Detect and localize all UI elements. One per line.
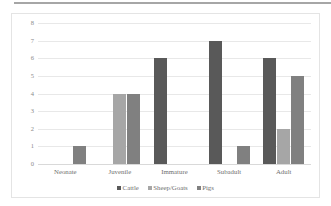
- bar-slot: [237, 23, 250, 164]
- legend-label: Cattle: [123, 185, 139, 192]
- bar-group-immature: [147, 23, 202, 164]
- bar-pigs-subadult[interactable]: [237, 146, 250, 164]
- bar-pigs-juvenile[interactable]: [127, 94, 140, 165]
- bar-group-subadult: [202, 23, 257, 164]
- bar-slot: [73, 23, 86, 164]
- bar-groups-container: [38, 23, 311, 164]
- bar-sheep-goats-adult[interactable]: [277, 129, 290, 164]
- bar-slot: [277, 23, 290, 164]
- y-axis-tick-label: 3: [31, 108, 34, 115]
- bar-slot: [113, 23, 126, 164]
- bar-cattle-immature[interactable]: [154, 58, 167, 164]
- legend-square-icon: [197, 186, 201, 190]
- bar-cattle-subadult[interactable]: [209, 41, 222, 164]
- bar-slot: [263, 23, 276, 164]
- x-axis-label-neonate: Neonate: [38, 169, 93, 176]
- bar-slot: [154, 23, 167, 164]
- x-axis-label-juvenile: Juvenile: [93, 169, 148, 176]
- y-axis-tick-label: 6: [31, 55, 34, 62]
- bar-slot: [182, 23, 195, 164]
- y-axis-tick-label: 5: [31, 73, 34, 80]
- legend-item-pigs[interactable]: Pigs: [197, 185, 214, 192]
- bar-pigs-neonate[interactable]: [73, 146, 86, 164]
- x-axis-label-subadult: Subadult: [202, 169, 257, 176]
- chart-legend: CattleSheep/GoatsPigs: [12, 185, 319, 192]
- bar-slot: [209, 23, 222, 164]
- y-axis-tick-label: 1: [31, 143, 34, 150]
- bar-group-juvenile: [93, 23, 148, 164]
- bar-slot: [99, 23, 112, 164]
- bar-group-adult: [256, 23, 311, 164]
- bar-group-neonate: [38, 23, 93, 164]
- x-axis-label-adult: Adult: [256, 169, 311, 176]
- legend-square-icon: [117, 186, 121, 190]
- bar-slot: [45, 23, 58, 164]
- top-divider-rule: [14, 2, 331, 4]
- legend-label: Sheep/Goats: [153, 185, 187, 192]
- bar-pigs-adult[interactable]: [291, 76, 304, 164]
- legend-item-cattle[interactable]: Cattle: [117, 185, 139, 192]
- bar-sheep-goats-juvenile[interactable]: [113, 94, 126, 165]
- y-axis-tick-label: 4: [31, 90, 34, 97]
- bar-slot: [168, 23, 181, 164]
- y-axis-tick-label: 8: [31, 20, 34, 27]
- chart-frame: 876543210 NeonateJuvenileImmatureSubadul…: [11, 13, 320, 198]
- x-axis-category-labels: NeonateJuvenileImmatureSubadultAdult: [38, 169, 311, 176]
- bar-cattle-adult[interactable]: [263, 58, 276, 164]
- bar-slot: [223, 23, 236, 164]
- bar-slot: [59, 23, 72, 164]
- gridline: [38, 164, 311, 165]
- bar-slot: [127, 23, 140, 164]
- y-axis-tick-label: 7: [31, 37, 34, 44]
- legend-item-sheep-goats[interactable]: Sheep/Goats: [148, 185, 188, 192]
- x-axis-label-immature: Immature: [147, 169, 202, 176]
- y-axis-tick-label: 2: [31, 126, 34, 133]
- y-axis-tick-label: 0: [31, 161, 34, 168]
- bar-slot: [291, 23, 304, 164]
- legend-square-icon: [148, 186, 152, 190]
- legend-label: Pigs: [202, 185, 214, 192]
